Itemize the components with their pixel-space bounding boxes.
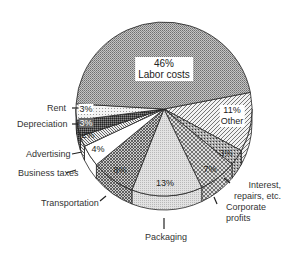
interest-label: Interest, repairs, etc. <box>234 180 281 202</box>
interest-pct: 3% <box>218 148 233 158</box>
advertising-label: Advertising <box>26 149 71 159</box>
other-label: 11% Other <box>220 105 245 127</box>
interest-line2: repairs, etc. <box>234 191 281 202</box>
corporate-profits-line1: Corporate <box>226 202 266 213</box>
transportation-pct: 8% <box>112 165 127 175</box>
interest-line1: Interest, <box>234 180 281 191</box>
corporate-profits-pct: 7% <box>202 164 217 174</box>
labor-costs-name: Labor costs <box>138 69 190 80</box>
labor-costs-label: 46% Labor costs <box>135 57 193 81</box>
business-taxes-label: Business taxes <box>18 168 79 178</box>
transportation-label: Transportation <box>41 198 99 208</box>
rent-label: Rent <box>47 103 66 113</box>
advertising-pct: 2% <box>80 130 95 140</box>
labor-costs-pct: 46% <box>138 58 190 69</box>
packaging-pct: 13% <box>155 178 175 188</box>
depreciation-label: Depreciation <box>17 119 68 129</box>
corporate-profits-line2: profits <box>226 213 266 224</box>
other-pct: 11% <box>221 105 244 116</box>
leader-arrow <box>100 196 106 201</box>
business-taxes-pct: 4% <box>90 144 105 154</box>
rent-pct: 3% <box>78 104 93 114</box>
other-name: Other <box>221 116 244 127</box>
packaging-label: Packaging <box>145 232 187 242</box>
leader-arrow <box>72 152 82 154</box>
leader-arrow <box>214 197 217 204</box>
corporate-profits-label: Corporate profits <box>226 202 266 224</box>
depreciation-pct: 3% <box>78 118 93 128</box>
